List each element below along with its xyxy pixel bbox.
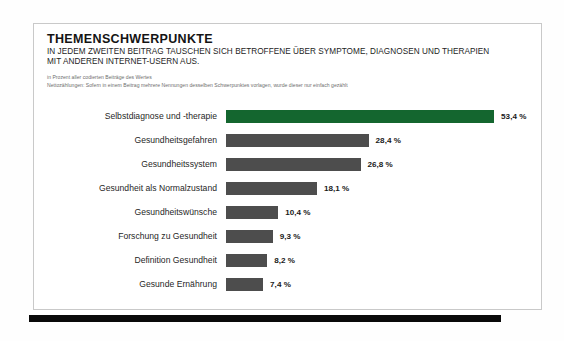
bar bbox=[226, 278, 263, 291]
category-label: Gesundheitswünsche bbox=[34, 207, 226, 217]
bar bbox=[226, 230, 273, 243]
bar-track: 7,4 % bbox=[226, 278, 541, 291]
bar-track: 53,4 % bbox=[226, 110, 541, 123]
value-label: 28,4 % bbox=[369, 136, 401, 145]
value-label: 8,2 % bbox=[267, 256, 295, 265]
category-label: Selbstdiagnose und -therapie bbox=[34, 111, 226, 121]
bar-highlighted bbox=[226, 110, 494, 123]
bar-track: 26,8 % bbox=[226, 158, 541, 171]
bar-track: 18,1 % bbox=[226, 182, 541, 195]
chart-row: Selbstdiagnose und -therapie53,4 % bbox=[34, 104, 541, 128]
subtitle-line-1: IN JEDEM ZWEITEN BEITRAG TAUSCHEN SICH B… bbox=[47, 47, 531, 57]
bar bbox=[226, 182, 317, 195]
value-label: 18,1 % bbox=[317, 184, 349, 193]
value-label: 7,4 % bbox=[263, 280, 291, 289]
bar bbox=[226, 254, 267, 267]
value-label: 53,4 % bbox=[494, 112, 526, 121]
note-unit: in Prozent aller codierten Beiträge des … bbox=[47, 74, 531, 81]
bar bbox=[226, 158, 361, 171]
bar-track: 9,3 % bbox=[226, 230, 541, 243]
chart-row: Forschung zu Gesundheit9,3 % bbox=[34, 224, 541, 248]
bottom-rule bbox=[29, 315, 501, 322]
bar-track: 10,4 % bbox=[226, 206, 541, 219]
note-counting-method: Nettozählungen: Sofern in einem Beitrag … bbox=[47, 82, 531, 89]
bar-track: 28,4 % bbox=[226, 134, 541, 147]
chart-row: Gesunde Ernährung7,4 % bbox=[34, 272, 541, 296]
category-label: Definition Gesundheit bbox=[34, 255, 226, 265]
chart-row: Gesundheitssystem26,8 % bbox=[34, 152, 541, 176]
category-label: Gesunde Ernährung bbox=[34, 279, 226, 289]
page-background: THEMENSCHWERPUNKTE IN JEDEM ZWEITEN BEIT… bbox=[0, 0, 564, 341]
category-label: Gesundheit als Normalzustand bbox=[34, 183, 226, 193]
category-label: Forschung zu Gesundheit bbox=[34, 231, 226, 241]
bar bbox=[226, 134, 369, 147]
subtitle-line-2: MIT ANDEREN INTERNET-USERN AUS. bbox=[47, 57, 531, 67]
methodology-notes: in Prozent aller codierten Beiträge des … bbox=[47, 74, 531, 88]
infographic-card: THEMENSCHWERPUNKTE IN JEDEM ZWEITEN BEIT… bbox=[33, 23, 542, 310]
bar-track: 8,2 % bbox=[226, 254, 541, 267]
chart-row: Gesundheitsgefahren28,4 % bbox=[34, 128, 541, 152]
value-label: 9,3 % bbox=[273, 232, 301, 241]
page-title: THEMENSCHWERPUNKTE bbox=[47, 32, 531, 46]
chart-row: Definition Gesundheit8,2 % bbox=[34, 248, 541, 272]
bar bbox=[226, 206, 278, 219]
card-header: THEMENSCHWERPUNKTE IN JEDEM ZWEITEN BEIT… bbox=[47, 32, 531, 89]
value-label: 10,4 % bbox=[278, 208, 310, 217]
value-label: 26,8 % bbox=[361, 160, 393, 169]
category-label: Gesundheitssystem bbox=[34, 159, 226, 169]
bar-chart: Selbstdiagnose und -therapie53,4 %Gesund… bbox=[34, 104, 541, 296]
category-label: Gesundheitsgefahren bbox=[34, 135, 226, 145]
chart-row: Gesundheitswünsche10,4 % bbox=[34, 200, 541, 224]
chart-row: Gesundheit als Normalzustand18,1 % bbox=[34, 176, 541, 200]
